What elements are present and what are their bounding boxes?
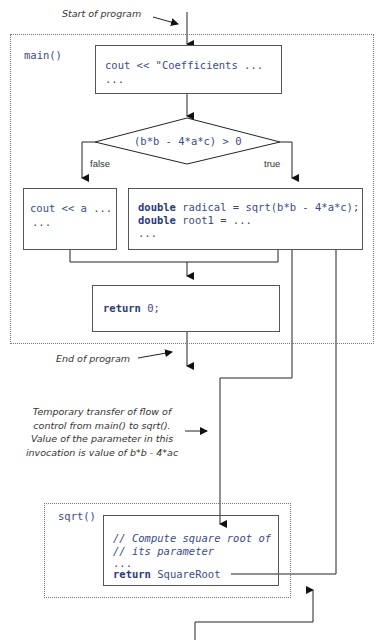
sqrt-function-label: sqrt() — [58, 510, 96, 522]
false-line-2: ... — [32, 216, 51, 229]
cout-line-1: cout << "Coefficients ... — [105, 59, 263, 72]
return-keyword: return — [103, 302, 141, 314]
transfer-line-4: invocation is value of b*b - 4*ac — [22, 446, 182, 460]
transfer-line-3: Value of the parameter in this — [22, 432, 182, 446]
return-zero-block: return 0; — [92, 285, 280, 332]
end-of-program-label: End of program — [56, 353, 130, 364]
true-branch-label: true — [264, 158, 280, 169]
return-keyword: return — [113, 568, 151, 580]
sqrt-return-line: return SquareRoot — [113, 568, 220, 581]
return-zero-line: return 0; — [103, 302, 160, 315]
radical-declaration: radical = sqrt(b*b - 4*a*c); — [176, 201, 359, 213]
false-branch-block: cout << a ... ... — [23, 188, 117, 250]
cout-line-2: ... — [105, 73, 124, 86]
true-line-2: double root1 = ... — [138, 214, 252, 227]
cout-coefficients-block: cout << "Coefficients ... ... — [95, 45, 282, 94]
sqrt-body-block: // Compute square root of // its paramet… — [103, 515, 279, 586]
false-line-1: cout << a ... — [30, 202, 112, 215]
condition-text: (b*b - 4*a*c) > 0 — [134, 135, 241, 147]
false-branch-label: false — [90, 158, 110, 169]
sqrt-comment-1: // Compute square root of — [113, 532, 271, 545]
square-root-value: SquareRoot — [151, 568, 221, 580]
true-line-1: double radical = sqrt(b*b - 4*a*c); — [138, 201, 359, 214]
start-of-program-label: Start of program — [62, 8, 141, 19]
transfer-line-1: Temporary transfer of flow of — [22, 405, 182, 419]
true-line-3: ... — [138, 227, 157, 240]
double-keyword: double — [138, 214, 176, 226]
double-keyword: double — [138, 201, 176, 213]
root1-declaration: root1 = ... — [176, 214, 252, 226]
return-value: 0; — [141, 302, 160, 314]
true-branch-block: double radical = sqrt(b*b - 4*a*c); doub… — [128, 188, 363, 250]
transfer-line-2: control from main() to sqrt(). — [22, 419, 182, 433]
transfer-annotation: Temporary transfer of flow of control fr… — [22, 405, 182, 459]
main-function-label: main() — [24, 49, 62, 61]
